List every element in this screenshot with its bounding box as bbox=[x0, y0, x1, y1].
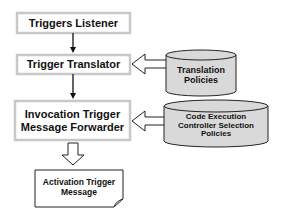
block-arrow-down-icon bbox=[62, 143, 84, 165]
forwarder-label: Invocation Trigger Message Forwarder bbox=[15, 101, 130, 140]
node-text: Message Forwarder bbox=[21, 121, 124, 134]
node-text: Trigger Translator bbox=[27, 58, 121, 71]
selection-policies-label: Code Execution Controller Selection Poli… bbox=[164, 109, 268, 143]
node-text: Policies bbox=[184, 75, 218, 85]
translation-policies-label: Translation Policies bbox=[166, 58, 236, 92]
node-text: Invocation Trigger bbox=[25, 108, 120, 121]
arrowhead-icon bbox=[70, 47, 76, 53]
node-text: Translation bbox=[177, 65, 225, 75]
activation-message-label: Activation Trigger Message bbox=[35, 172, 123, 204]
node-text: Policies bbox=[201, 130, 231, 139]
node-text: Triggers Listener bbox=[29, 17, 118, 30]
triggers-listener-label: Triggers Listener bbox=[17, 13, 130, 33]
arrowhead-icon bbox=[70, 93, 76, 99]
block-arrow-left-icon bbox=[132, 54, 168, 74]
node-text: Message bbox=[61, 188, 97, 198]
trigger-translator-label: Trigger Translator bbox=[17, 55, 130, 74]
block-arrow-left-icon bbox=[132, 111, 166, 131]
